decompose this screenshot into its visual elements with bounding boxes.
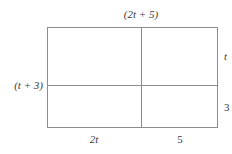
horizontal-divider <box>47 85 218 86</box>
right-upper-segment-label: t <box>224 51 227 62</box>
area-model-figure: (2t + 5) (t + 3) t 3 2t 5 <box>0 0 232 154</box>
bottom-left-segment-label: 2t <box>90 134 99 145</box>
outer-rectangle <box>47 27 218 128</box>
top-length-label: (2t + 5) <box>124 9 158 20</box>
right-lower-segment-label: 3 <box>224 102 230 113</box>
left-width-label: (t + 3) <box>14 80 43 91</box>
bottom-right-segment-label: 5 <box>177 134 183 145</box>
vertical-divider <box>141 27 142 128</box>
